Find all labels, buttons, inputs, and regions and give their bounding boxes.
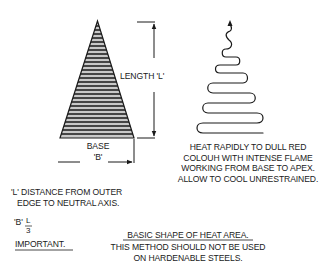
formula-denominator: 3	[26, 226, 30, 237]
important-label: IMPORTANT.	[15, 239, 65, 250]
base-symbol: 'B'	[80, 152, 116, 163]
length-definition: 'L' DISTANCE FROM OUTER EDGE TO NEUTRAL …	[11, 187, 131, 208]
definition-line: 'L' DISTANCE FROM OUTER	[11, 187, 131, 198]
heating-instruction: HEAT RAPIDLY TO DULL RED COLOUH WITH INT…	[168, 142, 325, 184]
caption: BASIC SHAPE OF HEAT AREA.	[103, 230, 273, 241]
warning-line: THIS METHOD SHOULD NOT BE USED	[103, 242, 273, 253]
instruction-line: COLOUH WITH INTENSE FLAME	[168, 153, 325, 164]
instruction-line: ALLOW TO COOL UNRESTRAINED.	[168, 174, 325, 185]
warning-text: THIS METHOD SHOULD NOT BE USED ON HARDEN…	[103, 242, 273, 263]
instruction-line: WORKING FROM BASE TO APEX.	[168, 163, 325, 174]
definition-line: EDGE TO NEUTRAL AXIS.	[11, 198, 131, 209]
base-label: BASE	[80, 141, 116, 152]
instruction-line: HEAT RAPIDLY TO DULL RED	[168, 142, 325, 153]
formula-lhs: 'B'	[14, 217, 23, 228]
length-label: LENGTH 'L'	[120, 71, 164, 82]
serpentine-heating-path	[197, 20, 263, 133]
warning-line: ON HARDENABLE STEELS.	[103, 253, 273, 264]
formula-numerator: L	[26, 216, 30, 227]
